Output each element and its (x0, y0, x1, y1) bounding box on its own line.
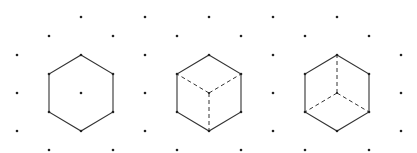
vertex-dot (176, 73, 179, 76)
grid-dot (144, 54, 147, 57)
vertex-dot (208, 92, 210, 94)
isometric-dot-diagram (0, 0, 417, 153)
grid-dot (304, 35, 307, 38)
grid-dot (240, 149, 243, 152)
grid-dot (240, 35, 243, 38)
vertex-dot (368, 73, 371, 76)
grid-dot (272, 92, 275, 95)
vertex-dot (80, 130, 83, 133)
grid-dot (144, 92, 147, 95)
grid-dot (336, 16, 339, 19)
hidden-edge-dashed (305, 93, 337, 112)
grid-dot (16, 92, 19, 95)
grid-dot (144, 130, 147, 133)
grid-dot (144, 16, 147, 19)
vertex-dot (112, 111, 115, 114)
vertex-dot (48, 73, 51, 76)
cube-top-view-figure (176, 54, 243, 133)
grid-dot (400, 54, 403, 57)
vertex-dot (336, 92, 338, 94)
cube-bottom-view-figure (304, 54, 371, 133)
grid-dot (368, 35, 371, 38)
vertex-dot (336, 130, 339, 133)
vertex-dot (80, 54, 83, 57)
grid-dot (400, 92, 403, 95)
grid-dot (176, 149, 179, 152)
grid-dot (80, 16, 83, 19)
hidden-edge-dashed (337, 93, 369, 112)
grid-dot (48, 149, 51, 152)
vertex-dot (304, 73, 307, 76)
grid-dot (16, 54, 19, 57)
grid-dot (16, 130, 19, 133)
vertex-dot (240, 73, 243, 76)
vertex-dot (240, 111, 243, 114)
grid-dot (48, 35, 51, 38)
vertex-dot (368, 111, 371, 114)
hidden-edge-dashed (209, 74, 241, 93)
hidden-edge-dashed (177, 74, 209, 93)
grid-dot (304, 149, 307, 152)
vertex-dot (176, 111, 179, 114)
grid-dot (208, 16, 211, 19)
shapes-layer (48, 54, 371, 133)
grid-dot (368, 149, 371, 152)
grid-dot (176, 35, 179, 38)
vertex-dot (304, 111, 307, 114)
vertex-dot (208, 130, 211, 133)
grid-dot (400, 130, 403, 133)
grid-dot (112, 149, 115, 152)
vertex-dot (336, 54, 339, 57)
grid-dot (80, 92, 83, 95)
vertex-dot (112, 73, 115, 76)
grid-dot (112, 35, 115, 38)
grid-dot (272, 16, 275, 19)
vertex-dot (48, 111, 51, 114)
vertex-dot (208, 54, 211, 57)
grid-dot (272, 54, 275, 57)
grid-dot (272, 130, 275, 133)
